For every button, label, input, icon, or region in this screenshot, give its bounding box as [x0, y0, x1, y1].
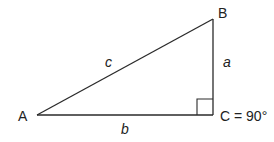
side-label-a: a — [223, 54, 231, 70]
vertex-label-a: A — [18, 108, 28, 124]
side-c-hypotenuse — [37, 19, 213, 115]
vertex-label-c: C = 90° — [220, 108, 267, 124]
right-angle-marker — [197, 99, 213, 115]
side-label-b: b — [121, 121, 129, 137]
vertex-label-b: B — [218, 5, 227, 21]
right-triangle-diagram: A B C = 90° c a b — [0, 0, 274, 142]
side-label-c: c — [105, 54, 112, 70]
